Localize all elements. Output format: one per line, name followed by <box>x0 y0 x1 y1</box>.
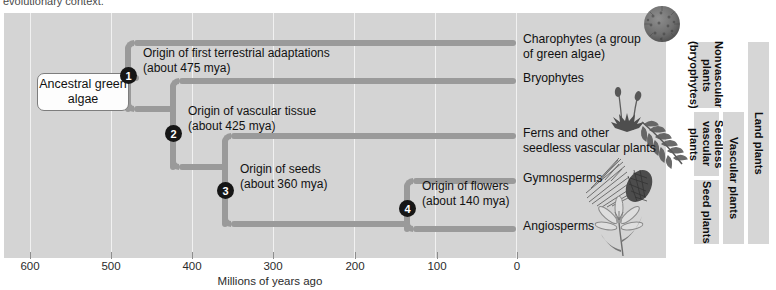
tick-500 <box>111 252 112 259</box>
event-label-4-line2: (about 140 mya) <box>422 194 509 209</box>
taxon-label-charophytes-line1: Charophytes (a group <box>523 32 641 47</box>
event-label-4: Origin of flowers (about 140 mya) <box>422 179 509 209</box>
branch-ferns <box>231 133 516 139</box>
event-label-2-line1: Origin of vascular tissue <box>188 104 316 119</box>
event-label-2-line2: (about 425 mya) <box>188 119 316 134</box>
node-marker-3[interactable]: 3 <box>217 182 234 199</box>
event-label-1: Origin of first terrestrial adaptations … <box>143 46 330 76</box>
node-marker-1-number: 1 <box>125 70 131 82</box>
tick-label-100: 100 <box>417 260 457 272</box>
node-marker-2[interactable]: 2 <box>165 125 182 142</box>
taxon-label-ferns-line2: seedless vascular plants <box>523 141 656 156</box>
event-label-3-line2: (about 360 mya) <box>240 177 327 192</box>
branch-bryophytes <box>179 78 516 84</box>
taxon-label-gymnosperms-line1: Gymnosperms <box>523 171 602 186</box>
event-label-1-line1: Origin of first terrestrial adaptations <box>143 46 330 61</box>
event-label-2: Origin of vascular tissue (about 425 mya… <box>188 104 316 134</box>
node-marker-3-number: 3 <box>222 185 228 197</box>
taxon-label-ferns: Ferns and other seedless vascular plants <box>523 126 656 156</box>
branch-node4-elbow-up <box>404 178 413 187</box>
node-marker-2-number: 2 <box>170 128 176 140</box>
node-marker-1[interactable]: 1 <box>120 67 137 84</box>
tick-0 <box>517 252 518 259</box>
branch-node1-elbow-up <box>125 40 134 49</box>
branch-node2-to-node3 <box>179 164 228 170</box>
taxon-label-bryophytes-line1: Bryophytes <box>523 71 584 86</box>
taxon-label-charophytes: Charophytes (a group of green algae) <box>523 32 641 62</box>
taxon-label-ferns-line1: Ferns and other <box>523 126 656 141</box>
taxon-label-angiosperms: Angiosperms <box>523 219 594 234</box>
taxon-label-bryophytes: Bryophytes <box>523 71 584 86</box>
gridline-0 <box>516 13 517 258</box>
bracket-nonvascular-plants: Nonvascular plants (bryophytes) <box>694 42 719 108</box>
tick-label-200: 200 <box>335 260 375 272</box>
branch-node2-elbow-up <box>170 78 179 87</box>
time-axis: 600 500 400 300 200 100 0 Millions of ye… <box>0 258 776 290</box>
bracket-land-plants-label: Land plants <box>752 112 764 175</box>
tick-label-500: 500 <box>91 260 131 272</box>
taxon-label-gymnosperms: Gymnosperms <box>523 171 602 186</box>
bracket-seedless-vascular-plants: Seedless vascular plants <box>694 112 719 176</box>
branch-node3-to-node4 <box>231 221 410 227</box>
tick-label-600: 600 <box>10 260 50 272</box>
node-marker-4[interactable]: 4 <box>399 200 416 217</box>
event-label-3: Origin of seeds (about 360 mya) <box>240 162 327 192</box>
axis-title: Millions of years ago <box>0 275 540 287</box>
green-algae-icon <box>641 4 683 46</box>
tick-label-0: 0 <box>497 260 537 272</box>
caption-text: evolutionary context. <box>3 0 104 7</box>
flower-icon <box>589 196 651 258</box>
ancestral-green-algae-box: Ancestral green algae <box>37 73 129 111</box>
tick-100 <box>437 252 438 259</box>
branch-angiosperms <box>413 226 516 232</box>
bracket-nonvascular-plants-label: Nonvascular plants (bryophytes) <box>688 41 725 109</box>
bracket-seed-plants: Seed plants <box>694 180 719 244</box>
node-marker-4-number: 4 <box>404 203 410 215</box>
ancestral-green-algae-label: Ancestral green algae <box>38 77 128 108</box>
bracket-vascular-plants-label: Vascular plants <box>727 137 739 219</box>
tick-400 <box>192 252 193 259</box>
taxon-label-angiosperms-line1: Angiosperms <box>523 219 594 234</box>
tick-label-300: 300 <box>253 260 293 272</box>
taxon-label-charophytes-line2: of green algae) <box>523 47 641 62</box>
bracket-vascular-plants: Vascular plants <box>723 112 744 244</box>
tick-600 <box>30 252 31 259</box>
branch-node3-elbow-up <box>222 133 231 142</box>
event-label-3-line1: Origin of seeds <box>240 162 327 177</box>
event-label-4-line1: Origin of flowers <box>422 179 509 194</box>
gridline-600 <box>30 13 31 258</box>
tick-label-400: 400 <box>172 260 212 272</box>
event-label-1-line2: (about 475 mya) <box>143 61 330 76</box>
bracket-land-plants: Land plants <box>748 42 769 244</box>
tick-200 <box>355 252 356 259</box>
bracket-seed-plants-label: Seed plants <box>700 181 712 244</box>
gridline-500 <box>111 13 112 258</box>
tick-300 <box>273 252 274 259</box>
